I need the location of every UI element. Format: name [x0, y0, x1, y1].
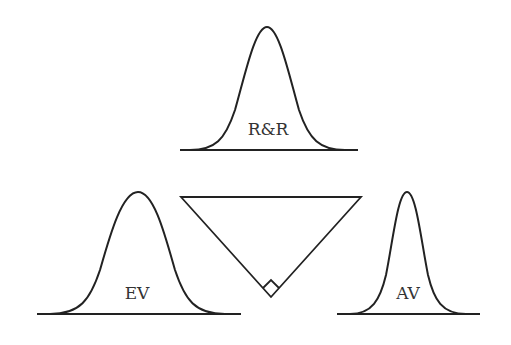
center-triangle [181, 197, 361, 297]
av-label: AV [395, 283, 420, 303]
rr-label: R&R [248, 119, 290, 139]
variance-diagram: R&R EV AV [0, 0, 511, 345]
right-triangle [181, 197, 361, 297]
av-distribution: AV [337, 192, 480, 314]
rr-distribution: R&R [180, 27, 358, 150]
ev-label: EV [125, 283, 150, 303]
ev-distribution: EV [37, 192, 241, 314]
right-angle-marker [263, 280, 279, 288]
